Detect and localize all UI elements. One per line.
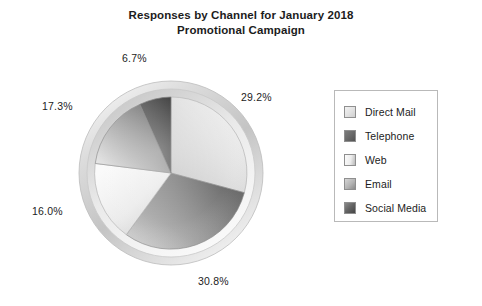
- pie-label-direct-mail: 29.2%: [241, 91, 272, 103]
- pie-label-web: 16.0%: [32, 205, 63, 217]
- legend-item-email: Email: [344, 172, 437, 196]
- legend-label-direct-mail: Direct Mail: [365, 106, 416, 118]
- legend-swatch-direct-mail: [344, 106, 356, 118]
- legend-label-web: Web: [365, 154, 387, 166]
- chart-title-line-2: Promotional Campaign: [0, 23, 482, 38]
- legend-label-email: Email: [365, 178, 392, 190]
- pie-svg: [78, 80, 264, 266]
- legend-item-direct-mail: Direct Mail: [344, 100, 437, 124]
- legend-swatch-telephone: [344, 130, 356, 142]
- chart-title: Responses by Channel for January 2018 Pr…: [0, 8, 482, 38]
- legend-label-social-media: Social Media: [365, 202, 426, 214]
- legend-swatch-web: [344, 154, 356, 166]
- legend-swatch-email: [344, 178, 356, 190]
- chart-title-line-1: Responses by Channel for January 2018: [129, 9, 354, 21]
- pie-label-telephone: 30.8%: [198, 275, 229, 287]
- legend-label-telephone: Telephone: [365, 130, 414, 142]
- legend-item-telephone: Telephone: [344, 124, 437, 148]
- pie-label-social-media: 6.7%: [122, 52, 147, 64]
- legend-item-web: Web: [344, 148, 437, 172]
- legend-swatch-social-media: [344, 202, 356, 214]
- pie-chart-figure: Responses by Channel for January 2018 Pr…: [0, 0, 482, 306]
- legend-item-social-media: Social Media: [344, 196, 437, 220]
- chart-legend: Direct Mail Telephone Web Email Social M…: [334, 90, 438, 222]
- pie-graphic: [78, 80, 264, 266]
- pie-label-email: 17.3%: [42, 100, 73, 112]
